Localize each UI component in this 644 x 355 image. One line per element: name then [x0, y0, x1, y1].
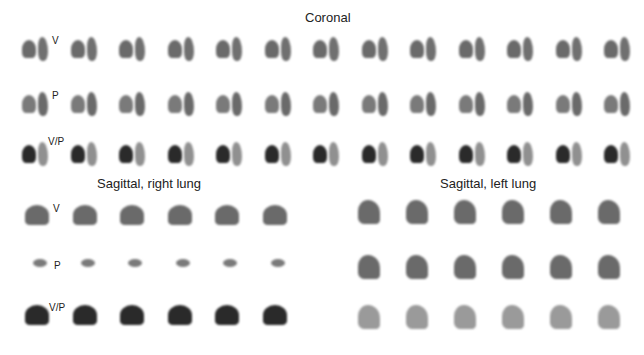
coronal-slice-right — [216, 40, 230, 58]
coronal-slice-right — [604, 145, 618, 163]
coronal-slice-right — [362, 145, 376, 163]
sagittal-left-slice — [502, 200, 524, 224]
sagittal-right-slice — [73, 205, 97, 225]
coronal-slice-right — [313, 40, 327, 58]
coronal-slice-left — [572, 142, 582, 166]
sagittal-right-slice — [168, 205, 192, 225]
coronal-slice-right — [22, 40, 36, 58]
coronal-slice-right — [507, 40, 521, 58]
coronal-slice-right — [119, 40, 133, 58]
coronal-slice-left — [329, 92, 339, 116]
coronal-slice-right — [507, 95, 521, 113]
coronal-slice-right — [168, 95, 182, 113]
coronal-slice-right — [265, 95, 279, 113]
coronal-vp-label: V/P — [48, 136, 64, 147]
coronal-slice-right — [410, 40, 424, 58]
coronal-slice-left — [620, 92, 630, 116]
sagittal-right-slice — [176, 259, 190, 267]
coronal-slice-left — [281, 37, 291, 61]
coronal-slice-left — [572, 37, 582, 61]
coronal-slice-right — [168, 145, 182, 163]
coronal-slice-left — [523, 92, 533, 116]
sagittal-right-slice — [263, 305, 287, 325]
sagittal-left-slice — [454, 255, 476, 279]
sagittal-right-slice — [33, 259, 47, 267]
coronal-v-label: V — [52, 35, 59, 46]
coronal-slice-left — [281, 92, 291, 116]
coronal-slice-left — [378, 142, 388, 166]
coronal-slice-left — [184, 142, 194, 166]
coronal-p-label: P — [52, 90, 59, 101]
coronal-slice-right — [168, 40, 182, 58]
sagittal-right-slice — [215, 205, 239, 225]
sagittal-left-slice — [550, 255, 572, 279]
sagittal-left-slice — [406, 200, 428, 224]
sagittal-left-slice — [502, 305, 524, 329]
coronal-slice-right — [265, 40, 279, 58]
coronal-slice-left — [523, 142, 533, 166]
coronal-slice-left — [232, 142, 242, 166]
sagittal-left-slice — [454, 305, 476, 329]
sagittal-right-slice — [25, 305, 49, 325]
sagittal-right-slice — [25, 205, 49, 225]
coronal-slice-right — [410, 145, 424, 163]
sagittal-right-slice — [271, 259, 285, 267]
coronal-slice-left — [329, 142, 339, 166]
coronal-slice-left — [523, 37, 533, 61]
sagittal-right-title: Sagittal, right lung — [97, 176, 201, 191]
coronal-slice-right — [604, 40, 618, 58]
sagittal-left-slice — [406, 305, 428, 329]
sagittal-left-slice — [358, 255, 380, 279]
coronal-slice-left — [475, 37, 485, 61]
sagittal-left-slice — [598, 200, 620, 224]
coronal-slice-right — [71, 145, 85, 163]
coronal-slice-right — [459, 40, 473, 58]
coronal-slice-right — [507, 145, 521, 163]
coronal-slice-right — [556, 145, 570, 163]
sagittal-left-slice — [598, 305, 620, 329]
coronal-slice-right — [71, 95, 85, 113]
sagittal-right-slice — [223, 259, 237, 267]
coronal-slice-left — [135, 92, 145, 116]
sagittal-right-v-label: V — [53, 203, 60, 214]
coronal-slice-left — [232, 37, 242, 61]
sagittal-left-slice — [406, 255, 428, 279]
sagittal-left-slice — [598, 255, 620, 279]
sagittal-left-slice — [550, 200, 572, 224]
coronal-slice-right — [216, 95, 230, 113]
coronal-slice-right — [556, 95, 570, 113]
coronal-slice-right — [313, 95, 327, 113]
coronal-slice-left — [281, 142, 291, 166]
coronal-slice-left — [87, 142, 97, 166]
sagittal-left-slice — [550, 305, 572, 329]
coronal-slice-right — [119, 95, 133, 113]
coronal-slice-right — [265, 145, 279, 163]
sagittal-right-slice — [128, 259, 142, 267]
coronal-slice-left — [38, 92, 48, 116]
coronal-slice-left — [426, 37, 436, 61]
sagittal-right-slice — [120, 205, 144, 225]
coronal-slice-right — [459, 95, 473, 113]
coronal-slice-left — [184, 92, 194, 116]
coronal-slice-right — [313, 145, 327, 163]
coronal-slice-right — [459, 145, 473, 163]
coronal-slice-left — [426, 142, 436, 166]
sagittal-right-slice — [120, 305, 144, 325]
coronal-slice-left — [475, 92, 485, 116]
sagittal-right-slice — [263, 205, 287, 225]
coronal-slice-left — [378, 37, 388, 61]
coronal-title: Coronal — [305, 10, 351, 25]
sagittal-right-slice — [168, 305, 192, 325]
coronal-slice-left — [135, 142, 145, 166]
coronal-slice-left — [87, 92, 97, 116]
coronal-slice-left — [475, 142, 485, 166]
coronal-slice-left — [184, 37, 194, 61]
coronal-slice-right — [556, 40, 570, 58]
coronal-slice-left — [329, 37, 339, 61]
coronal-slice-right — [410, 95, 424, 113]
coronal-slice-left — [87, 37, 97, 61]
sagittal-right-vp-label: V/P — [49, 302, 65, 313]
coronal-slice-right — [22, 145, 36, 163]
sagittal-left-title: Sagittal, left lung — [440, 176, 536, 191]
coronal-slice-left — [38, 142, 48, 166]
